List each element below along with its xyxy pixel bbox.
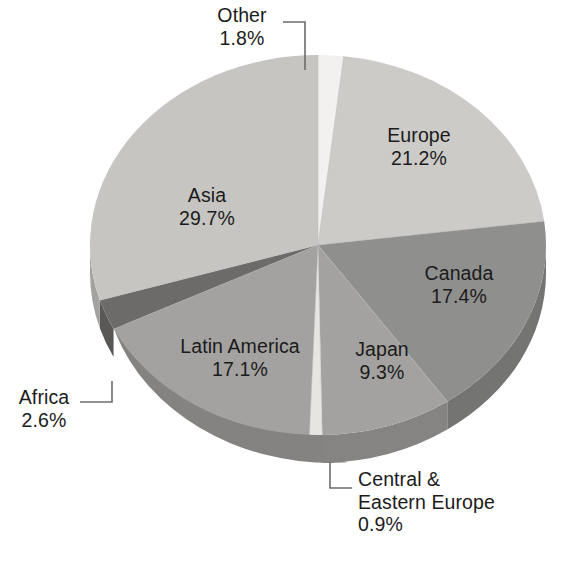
slice-label-canada: Canada 17.4%	[400, 262, 518, 307]
slice-label-asia-name: Asia	[152, 184, 262, 207]
slice-label-latin-america-name: Latin America	[163, 335, 317, 358]
slice-label-europe-value: 21.2%	[358, 147, 480, 170]
slice-label-other: Other 1.8%	[192, 4, 292, 49]
slice-label-latin-america-value: 17.1%	[163, 358, 317, 381]
pie-chart: Other 1.8% Europe 21.2% Canada 17.4% Jap…	[0, 0, 572, 562]
slice-label-canada-value: 17.4%	[400, 285, 518, 308]
slice-label-africa-value: 2.6%	[4, 409, 84, 432]
slice-label-japan-name: Japan	[334, 338, 430, 361]
slice-label-europe: Europe 21.2%	[358, 124, 480, 169]
leader-central-eastern-europe-icon	[330, 462, 352, 488]
slice-label-africa: Africa 2.6%	[4, 386, 84, 431]
slice-label-central-eastern-europe: Central & Eastern Europe 0.9%	[358, 468, 558, 536]
leader-africa-icon	[80, 381, 112, 402]
slice-label-other-value: 1.8%	[192, 27, 292, 50]
slice-label-europe-name: Europe	[358, 124, 480, 147]
slice-label-asia-value: 29.7%	[152, 207, 262, 230]
slice-label-other-name: Other	[192, 4, 292, 27]
slice-label-central-eastern-europe-name-line2: Eastern Europe	[358, 491, 558, 514]
slice-label-central-eastern-europe-value: 0.9%	[358, 513, 558, 536]
slice-label-africa-name: Africa	[4, 386, 84, 409]
slice-label-latin-america: Latin America 17.1%	[163, 335, 317, 380]
slice-label-japan: Japan 9.3%	[334, 338, 430, 383]
slice-label-japan-value: 9.3%	[334, 361, 430, 384]
slice-label-asia: Asia 29.7%	[152, 184, 262, 229]
slice-label-canada-name: Canada	[400, 262, 518, 285]
slice-label-central-eastern-europe-name-line1: Central &	[358, 468, 558, 491]
